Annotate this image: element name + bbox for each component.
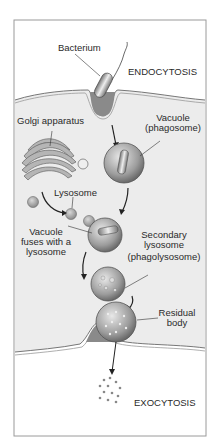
label-lysosome: Lysosome: [54, 188, 97, 198]
label-residual-line2: body: [152, 318, 202, 328]
lysosome: [28, 197, 39, 208]
label-exocytosis: EXOCYTOSIS: [134, 398, 196, 408]
label-residual-body: Residual body: [152, 308, 202, 328]
golgi-vesicle: [78, 159, 88, 169]
label-golgi: Golgi apparatus: [17, 116, 84, 126]
label-bacterium: Bacterium: [58, 43, 101, 53]
label-vacuole-line2: (phagosome): [140, 123, 206, 133]
phagolysosome: [91, 267, 125, 301]
residual-body: [96, 302, 136, 342]
fusing-vacuole: [88, 218, 122, 252]
label-secondary-line3: (phagolysosome): [122, 252, 206, 262]
label-vacuole: Vacuole (phagosome): [140, 113, 206, 133]
label-vacuole-fuses: Vacuole fuses with a lysosome: [16, 227, 76, 257]
lysosome: [66, 209, 77, 220]
label-endocytosis: ENDOCYTOSIS: [128, 67, 197, 77]
label-secondary-lysosome: Secondary lysosome (phagolysosome): [122, 230, 206, 262]
label-fuses-line3: lysosome: [16, 247, 76, 257]
label-secondary-line2: lysosome: [122, 240, 206, 250]
